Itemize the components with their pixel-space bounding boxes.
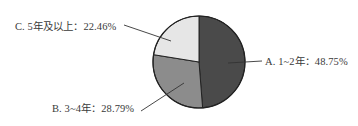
slice-c xyxy=(154,16,199,62)
slice-b xyxy=(153,55,203,108)
label-slice-b: B. 3~4年：28.79% xyxy=(52,100,134,115)
slice-a xyxy=(199,16,245,108)
label-slice-c: C. 5年及以上：22.46% xyxy=(15,18,116,33)
label-slice-a: A. 1~2年：48.75% xyxy=(265,53,348,68)
